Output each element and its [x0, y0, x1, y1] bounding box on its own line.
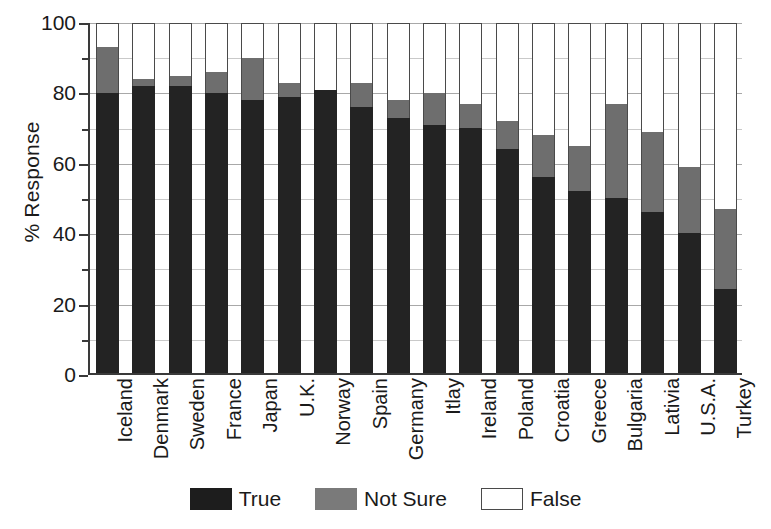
bar-segment-not-sure — [387, 100, 410, 118]
bar-column — [423, 23, 446, 373]
bar-segment-false — [459, 23, 482, 104]
bar-segment-not-sure — [714, 209, 737, 290]
bar-segment-true — [459, 128, 482, 373]
bar-column — [496, 23, 519, 373]
bar-segment-true — [678, 233, 701, 373]
bar-segment-false — [678, 23, 701, 167]
bar-segment-not-sure — [678, 167, 701, 234]
y-axis-tick-label: 100 — [16, 11, 76, 35]
bar-segment-not-sure — [350, 83, 373, 107]
bar-segment-true — [205, 93, 228, 373]
bar-column — [387, 23, 410, 373]
x-axis-tick-label-slot: Sweden — [167, 378, 190, 483]
x-axis-tick-label-slot: Ireland — [459, 378, 482, 483]
bar-segment-false — [496, 23, 519, 121]
bar-column — [605, 23, 628, 373]
y-axis-tick-label: 60 — [16, 152, 76, 176]
legend-label: False — [530, 487, 581, 511]
bar-series-container — [90, 23, 742, 373]
x-axis-tick-label: Turkey — [734, 378, 754, 438]
bar-segment-not-sure — [605, 104, 628, 199]
bar-segment-not-sure — [132, 79, 155, 86]
bar-segment-false — [205, 23, 228, 72]
bar-segment-true — [496, 149, 519, 373]
y-axis-tick — [79, 305, 88, 307]
bar-segment-false — [568, 23, 591, 146]
x-axis-tick-label-slot: Norway — [313, 378, 336, 483]
bar-segment-true — [132, 86, 155, 373]
x-axis-tick-label-slot: Turkey — [714, 378, 737, 483]
y-axis-tick-label: 80 — [16, 81, 76, 105]
bar-segment-true — [96, 93, 119, 373]
x-axis-tick-label-slot: Iceland — [94, 378, 117, 483]
legend-swatch — [190, 488, 232, 510]
x-axis-tick-label-slot: Lativia — [641, 378, 664, 483]
y-axis-tick-label: 40 — [16, 222, 76, 246]
legend-label: True — [239, 487, 281, 511]
chart-figure: % Response 020406080100 IcelandDenmarkSw… — [0, 0, 771, 529]
x-axis-tick-label-slot: Croatia — [532, 378, 555, 483]
bar-segment-false — [278, 23, 301, 83]
x-axis-tick-label-slot: Itlay — [422, 378, 445, 483]
bar-column — [278, 23, 301, 373]
bar-segment-not-sure — [169, 76, 192, 86]
bar-segment-true — [350, 107, 373, 373]
bar-segment-not-sure — [568, 146, 591, 192]
legend-label: Not Sure — [364, 487, 447, 511]
bar-segment-false — [387, 23, 410, 100]
bar-segment-true — [314, 90, 337, 374]
bar-segment-true — [387, 118, 410, 374]
y-axis-tick — [79, 375, 88, 377]
y-axis-tick — [79, 23, 88, 25]
bar-column — [205, 23, 228, 373]
y-axis-tick — [79, 164, 88, 166]
x-axis-tick-label-slot: Bulgaria — [605, 378, 628, 483]
bar-segment-not-sure — [641, 132, 664, 213]
bar-segment-false — [423, 23, 446, 93]
bar-column — [350, 23, 373, 373]
legend-item: Not Sure — [315, 487, 447, 511]
bar-column — [96, 23, 119, 373]
bar-column — [459, 23, 482, 373]
x-axis-tick-label-slot: France — [203, 378, 226, 483]
bar-column — [568, 23, 591, 373]
legend-item: True — [190, 487, 281, 511]
x-axis-tick-label-slot: Spain — [349, 378, 372, 483]
bar-column — [241, 23, 264, 373]
bar-segment-not-sure — [532, 135, 555, 177]
legend-item: False — [481, 487, 581, 511]
bar-column — [169, 23, 192, 373]
bar-segment-not-sure — [459, 104, 482, 128]
bar-segment-not-sure — [205, 72, 228, 93]
x-axis-tick-label-slot: Denmark — [130, 378, 153, 483]
bar-segment-true — [568, 191, 591, 373]
x-axis-tick-label-slot: U.S.A. — [678, 378, 701, 483]
bar-segment-false — [605, 23, 628, 104]
bar-segment-not-sure — [423, 93, 446, 125]
x-axis-tick-label-slot: Germany — [386, 378, 409, 483]
bar-segment-false — [241, 23, 264, 58]
bar-segment-false — [350, 23, 373, 83]
x-axis-tick-label-slot: U.K. — [276, 378, 299, 483]
bar-segment-false — [714, 23, 737, 209]
x-axis-tick-label-slot: Greece — [568, 378, 591, 483]
x-axis-tick-labels: IcelandDenmarkSwedenFranceJapanU.K.Norwa… — [88, 378, 742, 483]
bar-segment-true — [714, 289, 737, 373]
bar-segment-not-sure — [278, 83, 301, 97]
bar-segment-true — [641, 212, 664, 373]
bar-segment-true — [605, 198, 628, 373]
bar-segment-true — [278, 97, 301, 374]
x-axis-tick-label-slot: Poland — [495, 378, 518, 483]
bar-column — [641, 23, 664, 373]
legend-swatch — [481, 488, 523, 510]
bar-segment-not-sure — [96, 47, 119, 93]
bar-segment-false — [641, 23, 664, 132]
bar-segment-false — [169, 23, 192, 76]
bar-segment-true — [423, 125, 446, 374]
y-axis-tick-label: 0 — [16, 363, 76, 387]
y-axis-tick — [79, 234, 88, 236]
bar-segment-true — [241, 100, 264, 373]
bar-segment-not-sure — [496, 121, 519, 149]
bar-segment-false — [96, 23, 119, 48]
bar-column — [314, 23, 337, 373]
